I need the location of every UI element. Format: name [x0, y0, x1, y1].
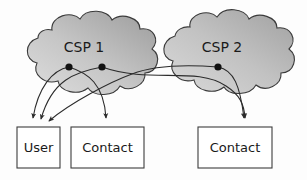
- diagram-svg: CSP 1 CSP 2: [0, 0, 307, 180]
- cloud-csp-2[interactable]: CSP 2: [164, 10, 294, 94]
- cloud-label-csp-2: CSP 2: [202, 39, 242, 55]
- box-contact-left[interactable]: Contact: [71, 127, 144, 168]
- box-user[interactable]: User: [17, 127, 60, 168]
- endpoint-dot-csp1-a[interactable]: [65, 63, 72, 70]
- endpoint-dot-csp2-a[interactable]: [214, 63, 221, 70]
- box-contact-right[interactable]: Contact: [198, 127, 272, 168]
- box-user-label: User: [24, 140, 54, 155]
- box-contact-left-label: Contact: [82, 140, 133, 155]
- cloud-label-csp-1: CSP 1: [64, 39, 104, 55]
- diagram-canvas: CSP 1 CSP 2: [0, 0, 307, 180]
- endpoint-dot-csp1-b[interactable]: [98, 63, 105, 70]
- box-contact-right-label: Contact: [210, 140, 261, 155]
